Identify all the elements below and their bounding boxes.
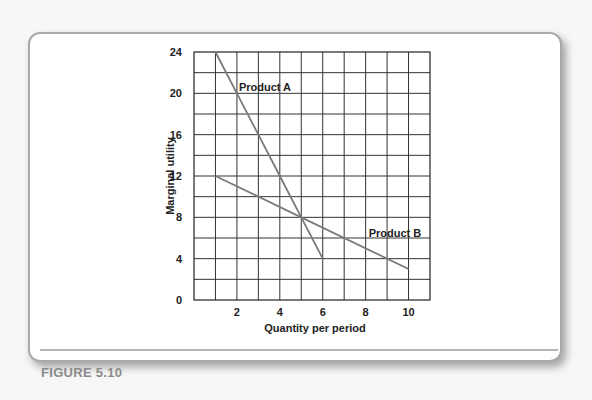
chart: 04812162024 246810 Product AProduct B Qu…	[0, 0, 592, 400]
x-axis-label: Quantity per period	[264, 322, 365, 334]
series-annotations: Product AProduct B	[239, 81, 421, 239]
x-tick-label: 4	[277, 306, 284, 318]
annotation-label: Product B	[369, 227, 422, 239]
x-axis-ticks: 246810	[234, 306, 415, 318]
y-tick-label: 24	[170, 46, 183, 58]
y-tick-label: 20	[170, 87, 182, 99]
x-tick-label: 2	[234, 306, 240, 318]
x-tick-label: 6	[320, 306, 326, 318]
x-tick-label: 10	[402, 306, 414, 318]
series-product-b	[215, 176, 408, 269]
y-tick-label: 4	[176, 253, 183, 265]
x-tick-label: 8	[363, 306, 369, 318]
annotation-label: Product A	[239, 81, 291, 93]
y-tick-label: 0	[176, 294, 182, 306]
y-axis-label: Marginal utility	[164, 136, 176, 215]
y-tick-label: 8	[176, 211, 182, 223]
